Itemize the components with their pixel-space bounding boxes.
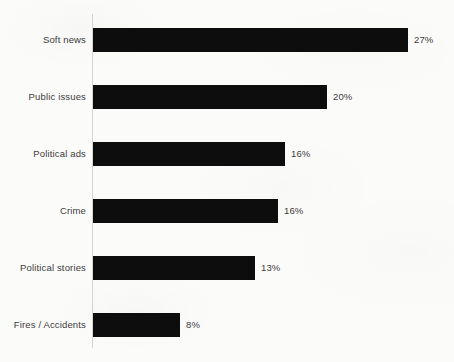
bar-value-label: 8%	[186, 313, 200, 337]
bar-chart: Soft news 27% Public issues 20% Politica…	[0, 0, 454, 362]
bar-row: Crime 16%	[0, 199, 454, 223]
bar-category-label: Political stories	[20, 256, 86, 280]
bar-category-label: Crime	[60, 199, 86, 223]
bar-row: Political ads 16%	[0, 142, 454, 166]
bar-row: Political stories 13%	[0, 256, 454, 280]
bar-row: Soft news 27%	[0, 28, 454, 52]
bar-rect	[93, 199, 278, 223]
bar-rect	[93, 85, 327, 109]
bar-rect	[93, 313, 180, 337]
bar-row: Fires / Accidents 8%	[0, 313, 454, 337]
bar-rect	[93, 256, 255, 280]
bar-value-label: 16%	[284, 199, 303, 223]
bar-category-label: Political ads	[33, 142, 86, 166]
category-axis-line	[92, 14, 93, 348]
bar-value-label: 20%	[333, 85, 352, 109]
bar-category-label: Public issues	[29, 85, 86, 109]
bar-value-label: 16%	[291, 142, 310, 166]
bar-value-label: 13%	[261, 256, 280, 280]
bar-rect	[93, 142, 285, 166]
bar-rect	[93, 28, 408, 52]
plot-area: Soft news 27% Public issues 20% Politica…	[0, 0, 454, 362]
bar-category-label: Fires / Accidents	[14, 313, 86, 337]
bar-value-label: 27%	[414, 28, 433, 52]
bar-row: Public issues 20%	[0, 85, 454, 109]
bar-category-label: Soft news	[43, 28, 86, 52]
